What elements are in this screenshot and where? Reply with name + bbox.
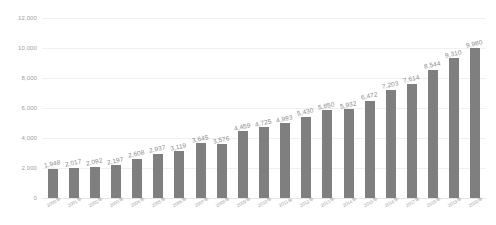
bar-slot: 4,725 — [253, 18, 274, 198]
bar-slot: 7,614 — [401, 18, 422, 198]
x-label-slot: 2009年 — [232, 200, 253, 222]
x-axis-tick-label: 2001年 — [67, 197, 83, 208]
bar[interactable] — [69, 168, 79, 198]
bar-value-label: 3,576 — [212, 135, 230, 145]
bar-slot: 1,948 — [42, 18, 63, 198]
bar-value-label: 5,932 — [339, 100, 357, 110]
bar[interactable] — [48, 169, 58, 198]
bar-slot: 3,119 — [169, 18, 190, 198]
bar-slot: 5,430 — [296, 18, 317, 198]
bar[interactable] — [365, 101, 375, 198]
x-label-slot: 2015年 — [359, 200, 380, 222]
x-axis-tick-label: 2008年 — [215, 197, 231, 208]
bar-slot: 2,937 — [148, 18, 169, 198]
plot-area: 02,0004,0006,0008,00010,00012,000 1,9482… — [42, 18, 486, 198]
x-axis-tick-label: 2003年 — [109, 197, 125, 208]
bar-slot: 6,472 — [359, 18, 380, 198]
x-axis-tick-label: 2015年 — [363, 197, 379, 208]
x-label-slot: 2001年 — [63, 200, 84, 222]
bar-slot: 9,980 — [465, 18, 486, 198]
bar[interactable] — [470, 48, 480, 198]
y-axis-tick-label: 2,000 — [21, 165, 37, 171]
x-label-slot: 2000年 — [42, 200, 63, 222]
bar-value-label: 3,645 — [191, 134, 209, 144]
bar-slot: 4,459 — [232, 18, 253, 198]
x-axis-labels: 2000年2001年2002年2003年2004年2005年2006年2007年… — [42, 200, 486, 222]
bar[interactable] — [153, 154, 163, 198]
x-axis-tick-label: 2013年 — [321, 197, 337, 208]
x-label-slot: 2017年 — [401, 200, 422, 222]
x-label-slot: 2003年 — [105, 200, 126, 222]
x-axis-tick-label: 2011年 — [279, 198, 294, 209]
x-label-slot: 2020年 — [465, 200, 486, 222]
bar-slot: 5,850 — [317, 18, 338, 198]
bar[interactable] — [386, 90, 396, 198]
bar-value-label: 4,993 — [276, 114, 294, 124]
x-axis-tick-label: 2007年 — [194, 197, 210, 208]
x-axis-tick-label: 2005年 — [152, 197, 168, 208]
x-label-slot: 2014年 — [338, 200, 359, 222]
x-label-slot: 2006年 — [169, 200, 190, 222]
bar-slot: 2,608 — [127, 18, 148, 198]
bar[interactable] — [344, 109, 354, 198]
bar-slot: 7,203 — [380, 18, 401, 198]
bar[interactable] — [174, 151, 184, 198]
bar-slot: 5,932 — [338, 18, 359, 198]
x-axis-tick-label: 2004年 — [130, 197, 146, 208]
x-axis-tick-label: 2009年 — [236, 197, 252, 208]
bar[interactable] — [217, 144, 227, 198]
bar[interactable] — [407, 84, 417, 198]
x-label-slot: 2016年 — [380, 200, 401, 222]
bar-value-label: 2,197 — [106, 156, 124, 166]
bar-slot: 3,645 — [190, 18, 211, 198]
x-axis-tick-label: 2020年 — [469, 197, 485, 208]
x-axis-tick-label: 2012年 — [300, 197, 316, 208]
x-label-slot: 2002年 — [84, 200, 105, 222]
bar[interactable] — [238, 131, 248, 198]
bar-value-label: 3,119 — [170, 142, 187, 152]
bar[interactable] — [111, 165, 121, 198]
x-axis-tick-label: 2006年 — [173, 197, 189, 208]
x-axis-tick-label: 2014年 — [342, 197, 358, 208]
bar[interactable] — [449, 58, 459, 198]
y-axis-tick-label: 6,000 — [21, 105, 37, 111]
bar-slot: 9,310 — [444, 18, 465, 198]
bar-value-label: 5,850 — [318, 101, 336, 111]
x-label-slot: 2019年 — [444, 200, 465, 222]
x-axis-tick-label: 2019年 — [448, 197, 464, 208]
y-axis-tick-label: 10,000 — [18, 45, 37, 51]
x-label-slot: 2011年 — [275, 200, 296, 222]
x-label-slot: 2008年 — [211, 200, 232, 222]
x-axis-tick-label: 2002年 — [88, 197, 104, 208]
bar-value-label: 4,459 — [233, 122, 251, 132]
y-axis-tick-label: 4,000 — [21, 135, 37, 141]
bar-chart: 02,0004,0006,0008,00010,00012,000 1,9482… — [0, 0, 496, 225]
bar[interactable] — [259, 127, 269, 198]
bar-slot: 3,576 — [211, 18, 232, 198]
x-axis-tick-label: 2018年 — [426, 197, 442, 208]
x-label-slot: 2013年 — [317, 200, 338, 222]
x-label-slot: 2010年 — [253, 200, 274, 222]
bar[interactable] — [132, 159, 142, 198]
bars-container: 1,9482,0172,0922,1972,6082,9373,1193,645… — [42, 18, 486, 198]
bar[interactable] — [280, 123, 290, 198]
bar-value-label: 4,725 — [254, 118, 272, 128]
x-label-slot: 2004年 — [127, 200, 148, 222]
x-axis-tick-label: 2016年 — [384, 197, 400, 208]
bar[interactable] — [196, 143, 206, 198]
y-axis-tick-label: 0 — [34, 195, 37, 201]
x-label-slot: 2007年 — [190, 200, 211, 222]
x-axis-tick-label: 2000年 — [46, 197, 62, 208]
bar[interactable] — [90, 167, 100, 198]
bar[interactable] — [301, 117, 311, 198]
x-axis-tick-label: 2017年 — [405, 197, 421, 208]
y-axis-tick-label: 8,000 — [21, 75, 37, 81]
bar-slot: 2,092 — [84, 18, 105, 198]
x-label-slot: 2005年 — [148, 200, 169, 222]
y-axis-tick-label: 12,000 — [18, 15, 37, 21]
bar-slot: 2,197 — [105, 18, 126, 198]
bar-slot: 8,544 — [423, 18, 444, 198]
x-label-slot: 2018年 — [423, 200, 444, 222]
bar[interactable] — [428, 70, 438, 198]
bar[interactable] — [322, 110, 332, 198]
